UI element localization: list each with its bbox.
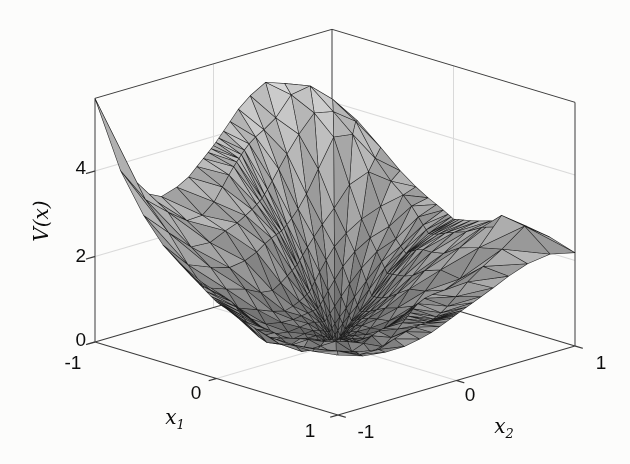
x2-tick-label-neg1: -1 xyxy=(358,422,375,441)
surface-plot-canvas xyxy=(0,0,630,464)
x1-tick-label-1: 1 xyxy=(305,421,316,440)
x2-tick-label-0: 0 xyxy=(465,385,476,404)
x1-tick-label-neg1: -1 xyxy=(65,353,82,372)
surface-plot-figure: 0 2 4 -1 0 1 -1 0 1 V(x) x1 x2 xyxy=(0,0,630,464)
z-tick-label-0: 0 xyxy=(75,330,86,349)
z-tick-label-2: 2 xyxy=(75,246,86,265)
x1-axis-label: x1 xyxy=(165,405,185,432)
x2-tick-label-1: 1 xyxy=(596,353,607,372)
z-axis-label: V(x) xyxy=(29,200,53,241)
x2-axis-label: x2 xyxy=(494,414,514,441)
z-tick-label-4: 4 xyxy=(75,158,86,177)
x1-tick-label-0: 0 xyxy=(191,383,202,402)
